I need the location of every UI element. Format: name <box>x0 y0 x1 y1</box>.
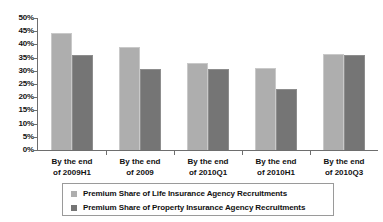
bar-life-share <box>119 47 140 150</box>
y-tick-label: 5% <box>0 133 34 141</box>
y-tick-mark <box>33 58 37 59</box>
bar-group <box>255 18 297 150</box>
legend-item-life: Premium Share of Life Insurance Agency R… <box>71 187 333 200</box>
y-tick-label: 10% <box>0 120 34 128</box>
legend-label-property: Premium Share of Property Insurance Agen… <box>83 203 305 212</box>
x-category-label: By the endof 2010H1 <box>242 157 310 178</box>
bar-life-share <box>187 63 208 150</box>
y-tick-label: 20% <box>0 93 34 101</box>
bar-group <box>51 18 93 150</box>
x-tick-mark <box>106 151 107 155</box>
y-tick-mark <box>33 110 37 111</box>
y-tick-label: 35% <box>0 54 34 62</box>
bar-group <box>187 18 229 150</box>
legend-item-property: Premium Share of Property Insurance Agen… <box>71 201 333 214</box>
x-tick-mark <box>310 151 311 155</box>
x-category-label-line: of 2009H1 <box>38 168 106 179</box>
x-category-label-line: of 2009 <box>106 168 174 179</box>
x-category-label: By the endof 2010Q1 <box>174 157 242 178</box>
y-tick-label: 40% <box>0 40 34 48</box>
y-tick-mark <box>33 137 37 138</box>
y-tick-label: 45% <box>0 27 34 35</box>
y-tick-mark <box>33 97 37 98</box>
bar-life-share <box>255 68 276 150</box>
y-tick-mark <box>33 31 37 32</box>
x-category-label-line: By the end <box>310 157 378 168</box>
x-tick-mark <box>242 151 243 155</box>
bar-life-share <box>51 33 72 150</box>
x-category-label-line: By the end <box>242 157 310 168</box>
plot-area: 50%45%40%35%30%25%20%15%10%5%0% By the e… <box>0 0 383 176</box>
legend-swatch-dark-icon <box>71 205 77 211</box>
bar-property-share <box>72 55 93 150</box>
bar-property-share <box>140 69 161 150</box>
y-tick-mark <box>33 84 37 85</box>
x-category-label-line: By the end <box>174 157 242 168</box>
x-category-label: By the endof 2010Q3 <box>310 157 378 178</box>
x-category-label-line: By the end <box>38 157 106 168</box>
y-tick-mark <box>33 18 37 19</box>
legend-swatch-light-icon <box>71 191 77 197</box>
x-category-label: By the endof 2009 <box>106 157 174 178</box>
bar-property-share <box>208 69 229 150</box>
y-tick-label: 30% <box>0 67 34 75</box>
y-tick-label: 50% <box>0 14 34 22</box>
y-axis-tick-labels: 50%45%40%35%30%25%20%15%10%5%0% <box>0 12 34 150</box>
y-tick-mark <box>33 124 37 125</box>
y-tick-label: 25% <box>0 80 34 88</box>
y-tick-mark <box>33 71 37 72</box>
x-category-label: By the endof 2009H1 <box>38 157 106 178</box>
x-category-label-line: of 2010Q3 <box>310 168 378 179</box>
bar-chart: 50%45%40%35%30%25%20%15%10%5%0% By the e… <box>0 0 383 222</box>
y-tick-label: 0% <box>0 146 34 154</box>
bar-property-share <box>276 89 297 150</box>
bar-property-share <box>344 55 365 150</box>
x-axis-line <box>37 150 378 151</box>
legend-label-life: Premium Share of Life Insurance Agency R… <box>83 189 287 198</box>
x-category-label-line: By the end <box>106 157 174 168</box>
chart-legend: Premium Share of Life Insurance Agency R… <box>62 183 334 216</box>
x-category-label-line: of 2010H1 <box>242 168 310 179</box>
x-tick-mark <box>174 151 175 155</box>
y-tick-mark <box>33 150 37 151</box>
y-tick-mark <box>33 44 37 45</box>
bar-group <box>323 18 365 150</box>
bar-group <box>119 18 161 150</box>
x-axis-tick-labels: By the endof 2009H1By the endof 2009By t… <box>38 157 378 181</box>
bars-container <box>38 18 378 150</box>
y-tick-label: 15% <box>0 106 34 114</box>
bar-life-share <box>323 54 344 150</box>
x-category-label-line: of 2010Q1 <box>174 168 242 179</box>
